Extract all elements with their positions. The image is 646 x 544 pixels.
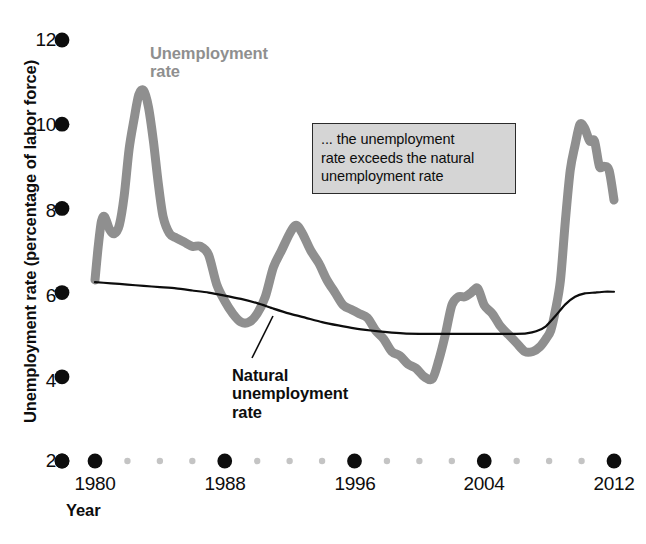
x-tick-label-2004: 2004 — [449, 473, 519, 495]
callout-annotation-box: ... the unemployment rate exceeds the na… — [312, 123, 516, 194]
y-tick-label-2: 2 — [26, 450, 56, 472]
x-axis-major-dots — [55, 454, 622, 469]
natural-unemployment-rate-label: Natural unemployment rate — [232, 366, 348, 421]
x-tick-label-2012: 2012 — [579, 473, 646, 495]
unemployment-rate-label-line1: Unemployment — [150, 44, 268, 62]
callout-line3: unemployment rate — [321, 167, 507, 186]
y-tick-label-8: 8 — [26, 200, 56, 222]
x-tick-label-1988: 1988 — [190, 473, 260, 495]
unemployment-rate-label-line2: rate — [150, 62, 268, 80]
unemployment-rate-label: Unemployment rate — [150, 44, 268, 81]
y-tick-label-6: 6 — [26, 285, 56, 307]
unemployment-chart-figure: Unemployment rate (percentage of labor f… — [0, 0, 646, 544]
y-tick-label-12: 12 — [26, 29, 56, 51]
callout-line2: rate exceeds the natural — [321, 149, 507, 168]
y-tick-label-4: 4 — [26, 370, 56, 392]
y-tick-label-10: 10 — [26, 114, 56, 136]
natural-label-line1: Natural — [232, 366, 348, 384]
x-tick-label-1996: 1996 — [320, 473, 390, 495]
callout-line1: ... the unemployment — [321, 130, 507, 149]
y-axis-dots — [55, 33, 70, 469]
x-axis-title: Year — [66, 501, 100, 520]
x-tick-label-1980: 1980 — [60, 473, 130, 495]
natural-label-line2: unemployment — [232, 384, 348, 402]
plot-area — [0, 0, 646, 544]
natural-label-line3: rate — [232, 403, 348, 421]
